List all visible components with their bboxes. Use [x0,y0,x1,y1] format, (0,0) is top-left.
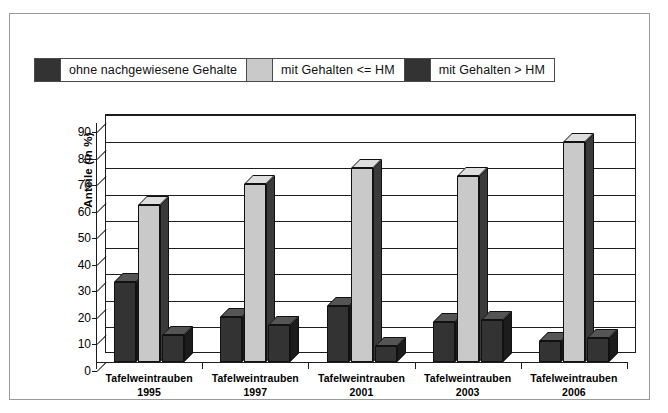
bar [138,205,160,362]
x-tick-mark [96,362,97,369]
legend-item[interactable]: ohne nachgewiesene Gehalte [35,59,247,81]
x-category-year: 2001 [308,385,414,399]
bar [481,320,503,362]
bar [457,176,479,362]
bar [539,341,561,362]
bar-front-face [268,325,290,362]
bar [244,184,266,362]
bar-front-face [244,184,266,362]
y-tick-label: 50 [78,231,91,245]
bar-front-face [162,335,184,362]
figure-frame: Anteile (in %) 0102030405060708090 Tafel… [9,13,650,400]
x-category-name: Tafelweintrauben [415,371,521,385]
x-tick-mark [521,362,522,369]
legend: ohne nachgewiesene Gehaltemit Gehalten <… [34,58,555,82]
x-category-name: Tafelweintrauben [521,371,627,385]
y-tick-label: 40 [78,258,91,272]
bar [351,168,373,362]
y-tick-label: 70 [78,178,91,192]
x-category-label: Tafelweintrauben2001 [308,371,414,399]
bar [433,322,455,362]
legend-swatch-icon [405,59,431,81]
legend-label: mit Gehalten > HM [431,63,554,77]
x-category-year: 2006 [521,385,627,399]
bar-side-face [585,133,594,362]
bar-series-container [96,114,636,372]
x-tick-mark [627,362,628,369]
x-category-year: 1995 [96,385,202,399]
legend-item[interactable]: mit Gehalten > HM [405,59,554,81]
x-category-name: Tafelweintrauben [308,371,414,385]
bar [587,338,609,362]
bar-front-face [433,322,455,362]
y-tick-label: 20 [78,311,91,325]
bar-front-face [563,142,585,362]
x-category-year: 2003 [415,385,521,399]
bar [114,282,136,362]
legend-label: mit Gehalten <= HM [273,63,404,77]
y-tick-label: 60 [78,205,91,219]
bar [375,346,397,362]
bar-front-face [220,317,242,362]
y-tick-label: 80 [78,152,91,166]
legend-label: ohne nachgewiesene Gehalte [61,63,246,77]
x-category-label: Tafelweintrauben2003 [415,371,521,399]
bar [268,325,290,362]
x-axis: Tafelweintrauben1995Tafelweintrauben1997… [96,362,636,406]
legend-swatch-icon [35,59,61,81]
bar [220,317,242,362]
legend-item[interactable]: mit Gehalten <= HM [247,59,405,81]
bar-front-face [327,306,349,362]
x-category-label: Tafelweintrauben1995 [96,371,202,399]
bar-front-face [587,338,609,362]
x-category-label: Tafelweintrauben1997 [202,371,308,399]
bar-front-face [481,320,503,362]
bar-front-face [351,168,373,362]
y-tick-label: 0 [84,364,91,378]
legend-swatch-icon [247,59,273,81]
x-tick-mark [308,362,309,369]
x-tick-mark [202,362,203,369]
x-tick-mark [415,362,416,369]
y-tick-label: 10 [78,337,91,351]
bar-front-face [114,282,136,362]
bar [327,306,349,362]
y-tick-label: 90 [78,125,91,139]
x-category-name: Tafelweintrauben [202,371,308,385]
bar-front-face [539,341,561,362]
plot-area: 0102030405060708090 [96,114,636,372]
bar-front-face [375,346,397,362]
bar [162,335,184,362]
bar-front-face [457,176,479,362]
bar-front-face [138,205,160,362]
bar [563,142,585,362]
bar-side-face [373,159,382,362]
y-tick-label: 30 [78,284,91,298]
x-category-name: Tafelweintrauben [96,371,202,385]
x-category-year: 1997 [202,385,308,399]
x-category-label: Tafelweintrauben2006 [521,371,627,399]
